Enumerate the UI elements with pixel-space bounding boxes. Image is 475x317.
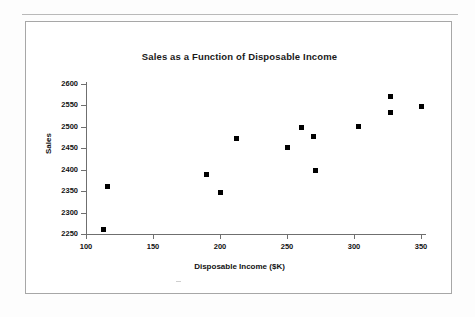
y-tick-label: 2450: [32, 144, 78, 152]
x-tick-label: 100: [66, 242, 106, 251]
data-point: [285, 145, 290, 150]
y-tick-label: 2550: [32, 101, 78, 109]
data-point: [234, 136, 239, 141]
data-point: [356, 124, 361, 129]
page-canvas: Sales as a Function of Disposable Income…: [0, 0, 475, 317]
page-top-rule: [22, 14, 458, 15]
x-tick-label: 200: [200, 242, 240, 251]
y-tick-label: 2300: [32, 209, 78, 217]
y-tick-label-wrap: 2250: [26, 230, 78, 238]
x-tick-label: 150: [133, 242, 173, 251]
x-tick-200: [220, 234, 221, 239]
y-tick-label-wrap: 2300: [26, 209, 78, 217]
x-tick-250: [287, 234, 288, 239]
x-tick-label: 350: [401, 242, 441, 251]
y-tick-label: 2350: [32, 187, 78, 195]
data-point: [388, 94, 393, 99]
data-point: [311, 134, 316, 139]
data-point: [218, 190, 223, 195]
plot-area: [86, 84, 421, 234]
y-tick-label-wrap: 2550: [26, 101, 78, 109]
chart-title: Sales as a Function of Disposable Income: [26, 51, 453, 62]
y-tick-label: 2400: [32, 166, 78, 174]
x-axis-title: Disposable Income ($K): [26, 262, 453, 271]
data-point: [101, 227, 106, 232]
x-axis-line: [86, 234, 426, 235]
y-tick-label-wrap: 2450: [26, 144, 78, 152]
x-tick-100: [86, 234, 87, 239]
data-point: [299, 125, 304, 130]
x-tick-300: [354, 234, 355, 239]
data-point: [388, 110, 393, 115]
data-point: [105, 184, 110, 189]
data-point: [313, 168, 318, 173]
y-tick-label: 2250: [32, 230, 78, 238]
scan-artifact: [176, 281, 181, 282]
data-point: [419, 104, 424, 109]
x-tick-350: [421, 234, 422, 239]
data-point: [204, 172, 209, 177]
y-tick-label-wrap: 2400: [26, 166, 78, 174]
y-tick-label-wrap: 2350: [26, 187, 78, 195]
y-tick-label: 2500: [32, 123, 78, 131]
y-tick-label: 2600: [32, 80, 78, 88]
y-tick-label-wrap: 2600: [26, 80, 78, 88]
chart-frame: Sales as a Function of Disposable Income…: [25, 21, 452, 294]
x-tick-label: 250: [267, 242, 307, 251]
x-tick-label: 300: [334, 242, 374, 251]
x-tick-150: [153, 234, 154, 239]
y-tick-label-wrap: 2500: [26, 123, 78, 131]
